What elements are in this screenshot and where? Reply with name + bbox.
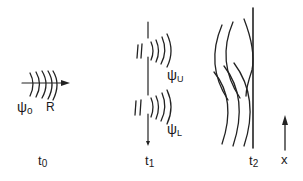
panel-t0: ψo R t0	[17, 71, 70, 169]
psi-0-label: ψo	[17, 99, 33, 116]
wave-packet-diagram: ψo R t0 ψU	[0, 0, 303, 181]
incident-wave-packet	[30, 71, 57, 100]
lower-arc-set	[214, 63, 250, 146]
panel-t2: t2	[214, 8, 259, 169]
upper-wave-packet	[137, 34, 171, 67]
x-axis-label: x	[281, 152, 288, 167]
R-label: R	[46, 100, 55, 114]
psi-U-label: ψU	[167, 67, 183, 84]
time-label-t0: t0	[38, 153, 48, 169]
psi-L-label: ψL	[167, 121, 182, 138]
barrier-line-t1	[146, 22, 150, 146]
time-label-t1: t1	[145, 153, 155, 169]
time-label-t2: t2	[249, 153, 259, 169]
x-axis-arrow-icon	[282, 115, 288, 150]
lower-wave-packet	[135, 90, 171, 124]
panel-t1: ψU ψL t1	[135, 22, 183, 169]
